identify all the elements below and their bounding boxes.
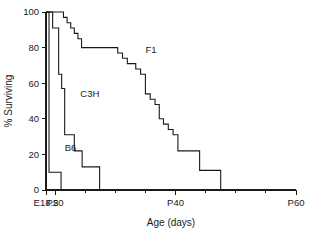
- x-tick-label: P20: [47, 197, 64, 208]
- y-tick-label: 80: [28, 42, 39, 53]
- survival-curves: [46, 12, 296, 190]
- x-tick-label: P60: [288, 197, 305, 208]
- series-annotations: B6C3HF1: [65, 44, 157, 153]
- curve-f1: [46, 12, 296, 190]
- x-axis-tick-labels: E18.5P20P40P60: [34, 197, 305, 208]
- y-tick-label: 40: [28, 113, 39, 124]
- survival-chart-figure: 020406080100 E18.5P20P40P60 B6C3HF1 Age …: [0, 0, 309, 233]
- y-axis-tick-labels: 020406080100: [23, 6, 39, 195]
- series-label-b6: B6: [65, 142, 77, 153]
- y-tick-label: 100: [23, 6, 39, 17]
- y-axis-ticks: [42, 12, 46, 190]
- curve-c3h: [46, 12, 100, 190]
- x-axis-title: Age (days): [147, 217, 195, 228]
- chart-canvas: 020406080100 E18.5P20P40P60 B6C3HF1 Age …: [0, 0, 309, 233]
- x-tick-label: P40: [167, 197, 184, 208]
- series-label-c3h: C3H: [80, 88, 99, 99]
- y-tick-label: 60: [28, 78, 39, 89]
- series-label-f1: F1: [145, 44, 156, 55]
- x-axis-ticks: [46, 190, 296, 195]
- y-tick-label: 0: [34, 184, 39, 195]
- y-tick-label: 20: [28, 149, 39, 160]
- y-axis-title: % Surviving: [3, 75, 14, 128]
